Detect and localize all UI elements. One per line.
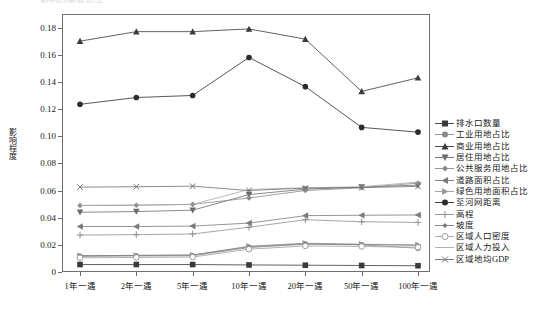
x-axis-tick-label: 50年一遇: [344, 281, 380, 291]
legend-label: 排水口数量: [456, 118, 501, 129]
legend-item[interactable]: 居住用地占比: [434, 152, 549, 163]
x-axis-tick: [249, 272, 250, 276]
x-axis-tick-label: 1年一遇: [64, 281, 95, 291]
x-axis-tick: [418, 272, 419, 276]
y-axis-tick-label: 0.14: [40, 77, 56, 86]
legend-marker-icon: [434, 118, 456, 129]
x-axis-tick: [305, 272, 306, 276]
legend-label: 高程: [456, 209, 474, 220]
x-axis-tick-label: 20年一遇: [288, 281, 324, 291]
y-axis-tick-label: 0.16: [40, 50, 56, 59]
x-axis-tick: [193, 272, 194, 276]
chart-legend: 排水口数量工业用地占比商业用地占比居住用地占比公共服务用地占比道路面积占比绿色用…: [434, 118, 549, 265]
plot-area: 00.020.040.060.080.100.120.140.160.18 1年…: [62, 14, 430, 272]
legend-item[interactable]: 工业用地占比: [434, 129, 549, 140]
legend-marker-icon: [434, 186, 456, 197]
legend-label: 区域地均GDP: [456, 254, 509, 265]
legend-marker-icon: [434, 141, 456, 152]
legend-label: 坡度: [456, 220, 474, 231]
legend-marker-icon: [434, 129, 456, 140]
x-axis-tick-label: 10年一遇: [231, 281, 267, 291]
legend-item[interactable]: 公共服务用地占比: [434, 163, 549, 174]
legend-item[interactable]: 坡度: [434, 220, 549, 231]
legend-item[interactable]: 绿色用地面积占比: [434, 186, 549, 197]
legend-item[interactable]: 道路面积占比: [434, 174, 549, 185]
legend-label: 绿色用地面积占比: [456, 186, 528, 197]
x-axis-tick: [80, 272, 81, 276]
y-axis-tick-label: 0.04: [40, 213, 56, 222]
x-axis-tick-label: 2年一遇: [121, 281, 152, 291]
x-axis-tick: [362, 272, 363, 276]
chart-figure: 影响因素敏感性 影响程度 00.020.040.060.080.100.120.…: [0, 0, 549, 312]
legend-marker-icon: [434, 220, 456, 231]
series-0: [77, 262, 421, 269]
legend-label: 商业用地占比: [456, 141, 510, 152]
y-axis-tick-label: 0.02: [40, 240, 56, 249]
legend-label: 工业用地占比: [456, 129, 510, 140]
legend-item[interactable]: 高程: [434, 208, 549, 219]
legend-label: 区域人力投入: [456, 242, 510, 253]
y-axis-tick: [58, 272, 62, 273]
x-axis-tick-label: 100年一遇: [398, 281, 438, 291]
y-axis-tick-label: 0.06: [40, 186, 56, 195]
legend-item[interactable]: 至河网距离: [434, 197, 549, 208]
x-axis-tick: [136, 272, 137, 276]
legend-marker-icon: [434, 209, 456, 220]
legend-label: 至河网距离: [456, 197, 501, 208]
legend-label: 公共服务用地占比: [456, 163, 528, 174]
legend-marker-icon: [434, 231, 456, 242]
legend-label: 道路面积占比: [456, 175, 510, 186]
legend-marker-icon: [434, 152, 456, 163]
legend-marker-icon: [434, 242, 456, 253]
legend-item[interactable]: 商业用地占比: [434, 141, 549, 152]
legend-label: 居住用地占比: [456, 152, 510, 163]
clipped-header-text: 影响因素敏感性: [40, 0, 160, 8]
legend-label: 区域人口密度: [456, 231, 510, 242]
series-7: [77, 55, 421, 135]
series-8: [77, 216, 422, 238]
legend-marker-icon: [434, 254, 456, 265]
legend-marker-icon: [434, 163, 456, 174]
legend-marker-icon: [434, 175, 456, 186]
legend-marker-icon: [434, 197, 456, 208]
legend-item[interactable]: 区域人力投入: [434, 242, 549, 253]
y-axis-tick-label: 0: [52, 268, 57, 277]
legend-item[interactable]: 区域地均GDP: [434, 254, 549, 265]
y-axis-tick-label: 0.18: [40, 23, 56, 32]
legend-item[interactable]: 区域人口密度: [434, 231, 549, 242]
x-axis-tick-label: 5年一遇: [177, 281, 208, 291]
y-axis-tick-label: 0.08: [40, 159, 56, 168]
legend-item[interactable]: 排水口数量: [434, 118, 549, 129]
y-axis-tick-label: 0.10: [40, 132, 56, 141]
y-axis-tick-label: 0.12: [40, 105, 56, 114]
series-canvas: [62, 14, 430, 272]
y-axis-title: 影响程度: [2, 128, 16, 160]
